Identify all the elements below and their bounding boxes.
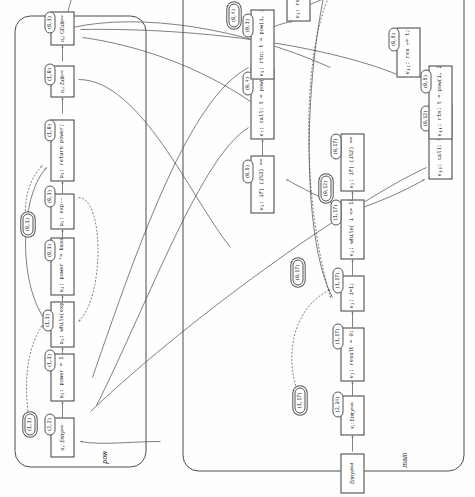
ann-float-main-2: ⟨0,17⟩ — [292, 259, 303, 285]
node-u8-sub: pow — [60, 15, 64, 21]
node-v11[interactable]: v₁₁: rtn: t = pow(i, 2); — [428, 65, 452, 139]
node-v12[interactable]: v₁₂: res += t; — [396, 27, 420, 77]
node-u3-label: u₃: while(exp — [59, 302, 64, 344]
node-v5[interactable]: v₅: if( (i%2) == — [340, 133, 364, 191]
node-v1-label: v₁: Entry — [349, 409, 354, 428]
ann-u4: ⟨0,1⟩ — [44, 239, 55, 261]
node-v6[interactable]: v₆: if( (i%3) == — [250, 155, 274, 213]
node-v2[interactable]: v₂: result = 0; — [340, 327, 364, 381]
ann-v12: ⟨0,5⟩ — [388, 27, 399, 51]
node-u4-label: u₄: power *= base; — [59, 237, 64, 292]
entry-global-label: Entry — [349, 472, 354, 484]
ann-v8: ⟨0,1⟩ — [242, 13, 253, 37]
ann-float-pow-1: ⟨1,1⟩ — [24, 413, 35, 435]
node-v12-label: v₁₂: res += t; — [405, 29, 410, 74]
node-v9-label: v₉: res += t; — [295, 0, 300, 18]
ann-float-main-3: ⟨0,12⟩ — [320, 175, 331, 201]
node-v6-label: v₆: if( (i%3) == — [259, 158, 264, 210]
ann-v2: ⟨1,17⟩ — [332, 323, 343, 349]
ann-u7: ⟨1,0⟩ — [44, 63, 55, 85]
cluster-main-label: main — [400, 452, 407, 467]
terminal-entry-global[interactable]: Entryglobal — [340, 453, 364, 493]
node-u2-label: u₂: power = 1.0; — [59, 353, 64, 398]
ann-u5: ⟨0,1⟩ — [44, 185, 55, 207]
ann-float-main-4: ⟨0,4⟩ — [228, 3, 239, 27]
node-v9[interactable]: v₉: res += t; — [286, 0, 310, 21]
node-u7-label: u₇: Exit — [59, 76, 64, 92]
node-u3[interactable]: u₃: while(exp — [50, 301, 74, 347]
node-v8-label: v₈: rtn: t = pow(i, 2); — [259, 9, 264, 76]
ann-v4: ⟨1,17⟩ — [330, 199, 341, 225]
cluster-pow-label: pow — [100, 450, 107, 463]
ann-v1: ⟨2,34⟩ — [332, 391, 343, 417]
ann-u2: ⟨1,1⟩ — [44, 349, 55, 371]
node-u5-label: u₅: exp-- — [59, 197, 64, 226]
node-v5-label: v₅: if( (i%2) == — [349, 136, 354, 188]
entry-global-sub: global — [350, 463, 354, 472]
node-v4-label: v₄: while( i <= 16 — [349, 199, 354, 256]
ann-u1: ⟨2,2⟩ — [44, 413, 55, 435]
node-v1[interactable]: v₁: Entrymain — [340, 395, 364, 435]
node-v8[interactable]: v₈: rtn: t = pow(i, 2); — [250, 9, 274, 79]
diagram-canvas: pow u₁: Entrypow ⟨2,2⟩ u₂: power = 1.0; … — [0, 0, 475, 497]
node-u8-label: u₈: GExit — [59, 21, 64, 41]
node-v11-label: v₁₁: rtn: t = pow(i, 2); — [437, 65, 442, 136]
node-u1-sub: pow — [60, 424, 64, 430]
ann-float-pow-2: ⟨0,1⟩ — [22, 213, 33, 235]
ann-float-main-1: ⟨1,17⟩ — [294, 387, 305, 413]
node-v3-label: v₃: i=1; — [349, 282, 354, 308]
node-v4[interactable]: v₄: while( i <= 16 — [340, 199, 364, 259]
diagram-stage: pow u₁: Entrypow ⟨2,2⟩ u₂: power = 1.0; … — [0, 0, 475, 497]
cluster-pow — [14, 15, 146, 467]
ann-v5: ⟨0,17⟩ — [330, 133, 341, 159]
node-u6-label: u₆: return power; — [59, 123, 64, 178]
ann-u3: ⟨1,1⟩ — [42, 309, 53, 331]
node-v3[interactable]: v₃: i=1; — [340, 275, 364, 311]
node-u7-sub: pow — [60, 70, 64, 76]
ann-u8: ⟨0,1⟩ — [44, 11, 55, 33]
node-u1-label: u₁: Entry — [59, 430, 64, 450]
ann-v11: ⟨0,5⟩ — [420, 69, 431, 93]
ann-u6: ⟨1,0⟩ — [44, 119, 55, 141]
node-v2-label: v₂: result = 0; — [349, 329, 354, 378]
node-v1-sub: main — [350, 402, 354, 409]
ann-v3: ⟨1,17⟩ — [332, 267, 343, 293]
ann-v6: ⟨0,5⟩ — [242, 159, 253, 183]
